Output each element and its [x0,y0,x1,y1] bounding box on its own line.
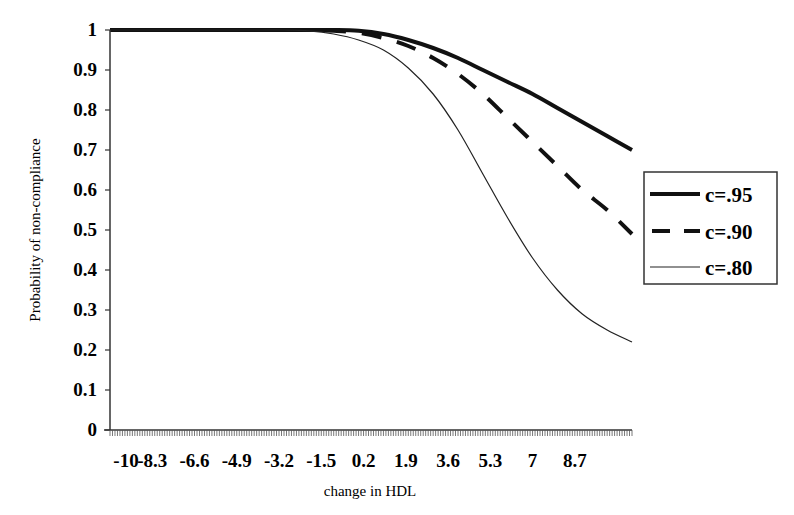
legend: c=.95 c=.90 c=.80 [644,172,777,284]
y-tick-label: 0.5 [73,219,97,240]
y-tick-label: 0.9 [73,59,97,80]
x-tick-label: -10 [113,450,138,471]
y-tick-label: 0 [88,419,98,440]
y-axis-title: Probability of non-compliance [27,138,43,322]
y-tick-label: 0.6 [73,179,97,200]
x-tick-label: -1.5 [306,450,336,471]
x-axis: -10-8.3-6.6-4.9-3.2-1.50.21.93.65.378.7 [104,430,632,471]
x-tick-label: 0.2 [352,450,376,471]
x-tick-label: 1.9 [394,450,418,471]
line-chart: 00.10.20.30.40.50.60.70.80.91 -10-8.3-6.… [0,0,794,515]
y-tick-label: 0.8 [73,99,97,120]
y-tick-label: 0.3 [73,299,97,320]
x-tick-label: 8.7 [563,450,587,471]
legend-label-c95: c=.95 [705,183,753,207]
x-tick-label: -3.2 [264,450,294,471]
y-tick-label: 0.2 [73,339,97,360]
x-tick-label: 5.3 [478,450,502,471]
plot-area [110,30,632,342]
series-line-c95 [110,30,632,150]
y-tick-label: 0.1 [73,379,97,400]
y-axis: 00.10.20.30.40.50.60.70.80.91 [73,19,110,440]
x-tick-label: 7 [528,450,538,471]
legend-label-c80: c=.80 [705,256,753,280]
y-tick-label: 0.4 [73,259,97,280]
y-tick-label: 0.7 [73,139,97,160]
x-tick-label: -8.3 [137,450,167,471]
x-tick-label: -4.9 [222,450,252,471]
legend-label-c90: c=.90 [705,220,753,244]
series-line-c90 [110,30,632,234]
x-tick-label: -6.6 [179,450,209,471]
x-tick-label: 3.6 [436,450,460,471]
x-axis-title: change in HDL [324,483,416,499]
y-tick-label: 1 [88,19,98,40]
series-line-c80 [110,30,632,342]
